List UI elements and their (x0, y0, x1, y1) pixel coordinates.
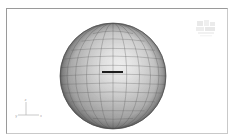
sphere-rim-shadow (60, 23, 166, 129)
screenshot-root: z x y (0, 0, 235, 140)
watermark-logo (193, 18, 219, 40)
viewport-3d[interactable]: z x y (6, 8, 228, 134)
axis-label-y: y (15, 113, 17, 118)
axis-tripod-lines (18, 102, 39, 115)
watermark-glyphs (196, 20, 215, 36)
axis-label-z: z (25, 97, 27, 102)
sphere-object[interactable] (57, 20, 169, 132)
axis-tripod: z x y (15, 97, 45, 125)
axis-label-x: x (40, 113, 42, 118)
viewport-canvas[interactable]: z x y (7, 9, 227, 133)
